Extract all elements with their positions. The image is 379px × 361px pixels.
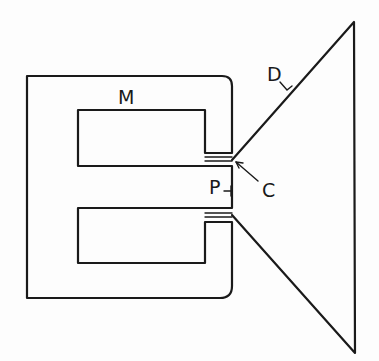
pole-piece-leader [224, 186, 232, 196]
label-diaphragm: D [267, 63, 282, 85]
coil-gap-leader [236, 162, 258, 181]
diaphragm-cone [232, 22, 355, 353]
diaphragm-leader [280, 82, 292, 90]
label-coil-gap: C [262, 179, 275, 201]
label-pole-piece: P [209, 176, 220, 198]
diagram-canvas: M D P C [0, 0, 379, 361]
schematic-svg: M D P C [0, 0, 379, 361]
magnet-core-outline [27, 76, 232, 298]
label-magnet: M [118, 86, 134, 108]
